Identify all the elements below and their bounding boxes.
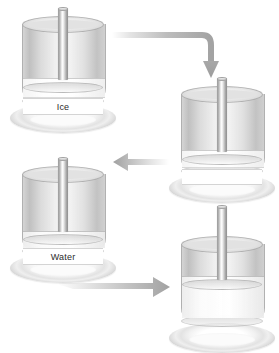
probe-rod-cap xyxy=(58,7,68,11)
stand-base-inner xyxy=(189,183,255,196)
apparatus-stage-4 xyxy=(167,228,277,353)
probe-rod-cap xyxy=(58,157,68,161)
stand-base-inner xyxy=(189,333,255,346)
apparatus-stage-3: Water xyxy=(8,158,118,283)
stage-label-blank xyxy=(182,169,262,185)
stand-base-inner xyxy=(30,113,96,126)
probe-rod xyxy=(217,206,227,280)
stand-base-inner xyxy=(30,263,96,276)
stand-base xyxy=(169,323,275,353)
stage-label-water: Water xyxy=(23,248,103,265)
content-surface xyxy=(23,82,103,93)
probe-rod xyxy=(58,8,68,80)
stage-label-ice: Ice xyxy=(23,98,103,115)
content-surface xyxy=(182,154,262,165)
water-surface xyxy=(23,234,103,245)
arrow-left-icon xyxy=(111,152,171,174)
arrow-right-then-down-icon xyxy=(110,28,225,84)
probe-rod xyxy=(58,158,68,232)
water-surface xyxy=(182,279,262,290)
apparatus-stage-2 xyxy=(167,78,277,203)
apparatus-stage-1: Ice xyxy=(8,8,118,133)
probe-rod-cap xyxy=(217,77,227,81)
probe-rod-cap xyxy=(217,205,227,209)
probe-rod xyxy=(217,78,227,152)
